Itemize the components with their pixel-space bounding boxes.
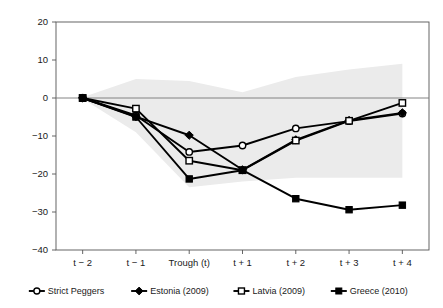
- y-axis-tick-label: −30: [32, 206, 48, 217]
- data-point-filled-diamond: [135, 287, 143, 295]
- x-axis-tick-label: t + 2: [286, 257, 305, 268]
- data-point-open-square: [399, 100, 405, 106]
- data-point-filled-square: [399, 202, 405, 208]
- y-axis: 20100−10−20−30−40: [32, 16, 56, 255]
- y-axis-tick-label: −10: [32, 130, 48, 141]
- data-point-filled-square: [79, 95, 85, 101]
- y-axis-tick-label: −40: [32, 244, 48, 255]
- chart-container: 20100−10−20−30−40 t − 2t − 1Trough (t)t …: [0, 0, 443, 308]
- data-point-open-square: [133, 105, 139, 111]
- data-point-filled-square: [293, 196, 299, 202]
- legend-item-label: Greece (2010): [350, 286, 408, 296]
- x-axis-tick-label: t + 4: [393, 257, 412, 268]
- chart-legend: Strict PeggersEstonia (2009)Latvia (2009…: [29, 286, 408, 296]
- legend-item-label: Latvia (2009): [252, 286, 305, 296]
- y-axis-tick-label: −20: [32, 168, 48, 179]
- x-axis-tick-label: t − 2: [73, 257, 92, 268]
- data-point-filled-square: [186, 176, 192, 182]
- legend-item[interactable]: Estonia (2009): [131, 286, 209, 296]
- legend-item[interactable]: Latvia (2009): [233, 286, 305, 296]
- data-point-open-circle: [34, 288, 40, 294]
- data-point-filled-square: [336, 288, 342, 294]
- data-point-filled-square: [346, 207, 352, 213]
- legend-item-label: Estonia (2009): [150, 286, 209, 296]
- y-axis-tick-label: 0: [43, 92, 48, 103]
- x-axis-tick-label: t − 1: [127, 257, 146, 268]
- legend-item[interactable]: Greece (2010): [331, 286, 408, 296]
- x-axis-tick-label: t + 1: [233, 257, 252, 268]
- data-point-open-square: [346, 118, 352, 124]
- data-point-filled-square: [133, 114, 139, 120]
- y-axis-tick-label: 20: [37, 16, 48, 27]
- line-chart: 20100−10−20−30−40 t − 2t − 1Trough (t)t …: [0, 0, 443, 308]
- data-point-filled-square: [239, 167, 245, 173]
- data-point-open-circle: [239, 142, 245, 148]
- data-point-open-square: [293, 137, 299, 143]
- legend-item-label: Strict Peggers: [48, 286, 105, 296]
- data-point-open-circle: [293, 125, 299, 131]
- x-axis: t − 2t − 1Trough (t)t + 1t + 2t + 3t + 4: [73, 250, 411, 268]
- data-point-open-square: [186, 158, 192, 164]
- data-point-open-square: [238, 288, 244, 294]
- y-axis-tick-label: 10: [37, 54, 48, 65]
- x-axis-tick-label: t + 3: [340, 257, 359, 268]
- data-point-open-circle: [186, 149, 192, 155]
- x-axis-tick-label: Trough (t): [169, 257, 210, 268]
- legend-item[interactable]: Strict Peggers: [29, 286, 105, 296]
